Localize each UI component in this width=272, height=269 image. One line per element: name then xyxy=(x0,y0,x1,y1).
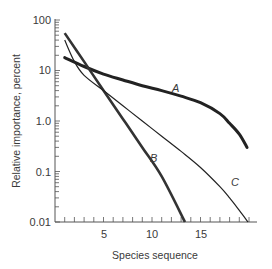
xtick-label-5: 5 xyxy=(101,228,107,240)
curve-c-label: C xyxy=(231,176,239,188)
x-axis-ticks xyxy=(65,217,249,222)
ytick-label-10: 10 xyxy=(39,64,51,76)
y-axis-title: Relative importance, percent xyxy=(10,54,22,188)
xtick-label-10: 10 xyxy=(146,228,158,240)
ytick-label-0.01: 0.01 xyxy=(30,216,51,228)
ytick-label-100: 100 xyxy=(33,14,51,26)
curve-a xyxy=(65,58,247,148)
curve-b xyxy=(65,33,185,222)
curve-c xyxy=(65,40,248,222)
xtick-label-15: 15 xyxy=(195,228,207,240)
y-axis-ticks xyxy=(55,20,60,222)
ytick-label-0.1: 0.1 xyxy=(36,166,51,178)
ytick-label-1: 1.0 xyxy=(36,115,51,127)
species-importance-chart: 100 10 1.0 0.1 0.01 5 10 15 Species sequ… xyxy=(0,0,272,269)
x-axis-title: Species sequence xyxy=(112,249,198,261)
curve-b-label: B xyxy=(150,152,157,164)
curve-a-label: A xyxy=(171,82,179,94)
